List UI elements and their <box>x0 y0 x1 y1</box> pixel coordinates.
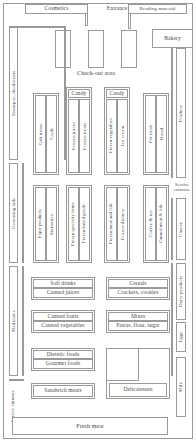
gondola-block-1-bottom <box>33 288 93 298</box>
checkout-counter-3 <box>121 30 137 68</box>
gondola-block-4-top <box>108 312 168 321</box>
candy-header-1 <box>68 89 90 98</box>
delicatessen-inner <box>109 383 167 397</box>
aisle-row2-block-1-left <box>35 187 46 261</box>
aisle-row2-block-3-right <box>117 187 128 261</box>
reading-material-wall-stub <box>128 13 131 29</box>
aisle-row1-block-1-left <box>35 95 46 173</box>
aisle-row2-block-4-left <box>145 187 156 261</box>
gondola-block-2-top <box>108 279 168 288</box>
gondola-block-3-bottom <box>33 321 93 331</box>
gondola-block-1-top <box>33 279 93 288</box>
medicines-fixture <box>9 266 18 376</box>
delicatessen-counter-notch <box>107 349 139 381</box>
supermarket-floor-plan: Cosmetics Entrance Reading material Bake… <box>0 0 196 442</box>
fresh-meat-fixture <box>12 417 168 435</box>
aisle-row1-block-3-left <box>106 99 117 173</box>
left-wall-stub-top <box>9 26 66 28</box>
reading-material-fixture <box>128 4 187 14</box>
dairy-products-fixture <box>176 263 186 320</box>
aisle-row1-block-3-right <box>117 99 128 173</box>
service-entrance-left-stub <box>9 379 24 381</box>
gondola-block-4-bottom <box>108 321 168 331</box>
milk-fixture <box>176 357 186 417</box>
aisle-row2-block-2-right <box>79 187 90 261</box>
aisle-row1-block-2-right <box>79 99 90 173</box>
produce-fixture <box>176 48 186 178</box>
aisle-row1-block-4-right <box>156 95 167 173</box>
aisle-row2-block-1-right <box>46 187 57 261</box>
right-wall-stub-vertical-3 <box>171 263 173 376</box>
gondola-block-6-inner <box>33 385 93 397</box>
gondola-block-2-bottom <box>108 288 168 298</box>
shampoo-deodorants-fixture <box>9 27 18 160</box>
grooming-aids-fixture <box>9 163 18 263</box>
gondola-block-5-top <box>33 350 93 359</box>
aisle-row2-block-4-right <box>156 187 167 261</box>
cosmetics-fixture <box>25 4 88 14</box>
left-wall-stub-vertical-3 <box>22 266 24 376</box>
left-wall-stub-vertical-2 <box>22 163 24 263</box>
aisle-row1-block-4-left <box>145 95 156 173</box>
checkout-counter-1 <box>55 30 71 68</box>
checkout-counter-2 <box>88 30 104 68</box>
candy-header-2 <box>106 89 128 98</box>
aisle-row1-block-1-right <box>46 95 57 173</box>
right-wall-stub-vertical-2 <box>171 198 173 260</box>
gondola-block-5-bottom <box>33 359 93 369</box>
aisle-row1-block-2-left <box>68 99 79 173</box>
bakery-fixture <box>152 29 193 48</box>
cosmetics-wall-stub <box>85 13 88 26</box>
aisle-row2-block-2-left <box>68 187 79 261</box>
eggs-fixture <box>176 322 186 352</box>
gondola-block-3-top <box>33 312 93 321</box>
cheese-fixture <box>176 198 186 260</box>
aisle-row2-block-3-left <box>106 187 117 261</box>
right-wall-stub-vertical <box>171 48 173 178</box>
